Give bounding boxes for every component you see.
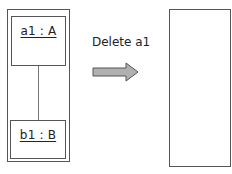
action-label: Delete a1 [92,35,150,49]
after-state-frame [169,9,231,167]
object-b1: b1 : B [10,120,66,159]
link-a1-b1 [38,66,39,120]
object-a1: a1 : A [11,16,66,66]
right-arrow-icon [92,62,140,82]
object-b1-label: b1 : B [20,128,56,142]
object-a1-label: a1 : A [20,24,56,38]
